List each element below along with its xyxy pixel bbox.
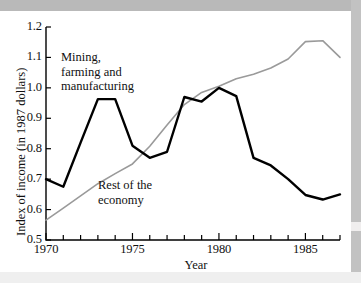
scan-artifact-top-band <box>0 0 361 11</box>
x-axis-title: Year <box>136 258 256 273</box>
y-tick-label: 1.1 <box>8 49 42 64</box>
y-tick-label: 1.2 <box>8 19 42 34</box>
x-tick-label: 1975 <box>109 242 155 257</box>
scan-artifact-right-band <box>351 0 361 283</box>
plot-area <box>0 11 351 272</box>
x-tick-label: 1970 <box>23 242 69 257</box>
x-tick-label: 1980 <box>196 242 242 257</box>
series-label-rest-of-economy: Rest of the economy <box>98 178 152 207</box>
figure-page: 0.5 0.6 0.7 0.8 0.9 1.0 1.1 1.2 1970 197… <box>0 0 361 283</box>
x-tick-label: 1985 <box>282 242 328 257</box>
line-chart <box>0 11 351 272</box>
series-label-mining-farming-manufacturing: Mining, farming and manufacturing <box>61 50 134 94</box>
scan-artifact-bottom-band <box>0 272 361 283</box>
y-axis-title: Index of income (in 1987 dollars) <box>14 68 29 236</box>
